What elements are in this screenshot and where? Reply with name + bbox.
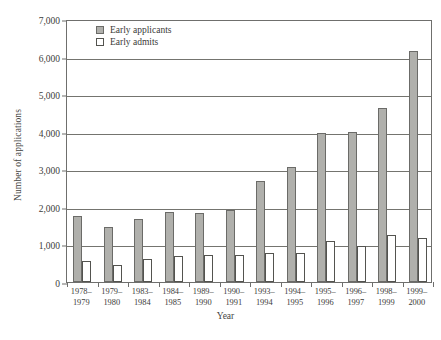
legend-swatch-admits xyxy=(96,38,104,46)
bar-early-applicants xyxy=(317,133,326,282)
x-axis-tick-label: 1993–1994 xyxy=(249,287,280,308)
legend-label: Early applicants xyxy=(110,24,171,36)
legend-item: Early applicants xyxy=(96,24,171,36)
x-axis-tick-label: 1998–1999 xyxy=(371,287,402,308)
x-axis-tick-label: 1995–1996 xyxy=(310,287,341,308)
x-axis-tick-label: 1989–1990 xyxy=(188,287,219,308)
bars-layer xyxy=(67,21,431,282)
y-axis-tick-label: 6,000 xyxy=(39,54,67,64)
x-axis-tick-label: 1994–1995 xyxy=(280,287,311,308)
bar-early-admits xyxy=(265,253,274,282)
bar-chart: Number of applications 01,0002,0003,0004… xyxy=(0,0,441,340)
bar-early-admits xyxy=(235,255,244,282)
bar-early-admits xyxy=(113,265,122,282)
bar-early-applicants xyxy=(226,210,235,283)
bar-early-admits xyxy=(82,261,91,282)
bar-early-admits xyxy=(204,255,213,282)
bar-early-applicants xyxy=(104,227,113,282)
bar-group xyxy=(256,21,274,282)
bar-early-applicants xyxy=(195,213,204,282)
bar-early-applicants xyxy=(378,108,387,282)
bar-early-applicants xyxy=(287,167,296,282)
bar-early-applicants xyxy=(348,132,357,282)
bar-early-applicants xyxy=(73,216,82,282)
legend-label: Early admits xyxy=(110,36,158,48)
bar-early-admits xyxy=(143,259,152,282)
y-axis-tick-label: 1,000 xyxy=(39,241,67,251)
bar-early-applicants xyxy=(165,212,174,282)
y-axis-tick-label: 4,000 xyxy=(39,129,67,139)
bar-group xyxy=(378,21,396,282)
bar-group xyxy=(104,21,122,282)
x-axis-tick-label: 1999–2000 xyxy=(402,287,433,308)
x-axis-tick-label: 1990–1991 xyxy=(219,287,250,308)
bar-early-applicants xyxy=(256,181,265,282)
x-axis-tick-label: 1979–1980 xyxy=(97,287,128,308)
bar-group xyxy=(165,21,183,282)
y-axis-tick-label: 7,000 xyxy=(39,16,67,26)
bar-group xyxy=(317,21,335,282)
bar-early-admits xyxy=(296,253,305,282)
bar-group xyxy=(73,21,91,282)
chart-legend: Early applicantsEarly admits xyxy=(96,24,171,48)
x-axis-tick-label: 1996–1997 xyxy=(341,287,372,308)
bar-early-admits xyxy=(357,246,366,282)
bar-early-applicants xyxy=(134,219,143,282)
bar-group xyxy=(409,21,427,282)
bar-group xyxy=(195,21,213,282)
x-axis-title: Year xyxy=(0,311,441,321)
y-axis-tick-label: 5,000 xyxy=(39,91,67,101)
bar-early-admits xyxy=(326,241,335,282)
bar-group xyxy=(287,21,305,282)
bar-early-applicants xyxy=(409,51,418,282)
y-axis-title: Number of applications xyxy=(13,85,23,225)
bar-group xyxy=(134,21,152,282)
x-axis-tick-label: 1983–1984 xyxy=(127,287,158,308)
legend-item: Early admits xyxy=(96,36,171,48)
y-axis-tick-label: 3,000 xyxy=(39,166,67,176)
bar-early-admits xyxy=(418,238,427,282)
bar-early-admits xyxy=(387,235,396,282)
x-axis-tick-mark xyxy=(433,282,434,287)
bar-early-admits xyxy=(174,256,183,282)
x-axis-tick-label: 1978–1979 xyxy=(66,287,97,308)
bar-group xyxy=(348,21,366,282)
x-axis-title-text: Year xyxy=(207,311,235,321)
x-axis-tick-label: 1984–1985 xyxy=(158,287,189,308)
y-axis-tick-label: 2,000 xyxy=(39,204,67,214)
plot-area: 01,0002,0003,0004,0005,0006,0007,000 xyxy=(66,20,432,283)
bar-group xyxy=(226,21,244,282)
legend-swatch-applicants xyxy=(96,26,104,34)
